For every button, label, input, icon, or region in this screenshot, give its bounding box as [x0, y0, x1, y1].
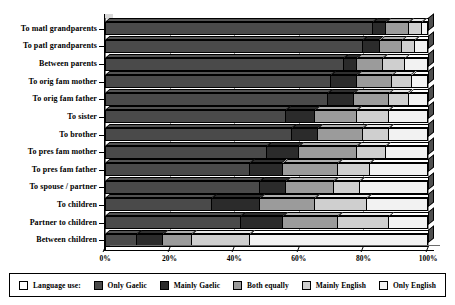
bar-segment	[105, 198, 212, 211]
y-axis-tick	[99, 170, 105, 171]
bar-row-end-cap	[428, 225, 434, 243]
bar-segment	[392, 75, 411, 88]
bar-row-end-cap	[428, 14, 434, 32]
bar-segment	[260, 181, 286, 194]
bar-segment	[357, 110, 389, 123]
x-axis-tick-label: 0%	[99, 254, 110, 263]
bar-segment	[389, 128, 428, 141]
bar-segment	[105, 163, 250, 176]
bar-row	[105, 93, 428, 106]
category-label: To matl grandparents	[21, 24, 97, 34]
bar-segment-top-face	[389, 124, 433, 128]
x-axis-tick-label: 60%	[291, 254, 306, 263]
category-label: To children	[57, 200, 97, 210]
bar-segment	[250, 163, 282, 176]
bar-segment	[286, 181, 334, 194]
bar-segment	[338, 216, 390, 229]
bar-segment-top-face	[360, 177, 433, 181]
x-axis-baseline	[104, 250, 434, 251]
bar-segment-top-face	[105, 18, 378, 22]
bar-segment	[212, 198, 260, 211]
bar-segment	[415, 40, 428, 53]
y-axis-tick	[99, 152, 105, 153]
bar-segment-top-face	[315, 194, 371, 198]
bar-segment	[283, 163, 338, 176]
legend-entry-mainly-gaelic[interactable]: Mainly Gaelic	[160, 281, 221, 290]
legend-swatch-mainly-gaelic	[160, 281, 169, 290]
bar-row	[105, 40, 428, 53]
legend-entry-prefix: Language use:	[19, 281, 81, 290]
bar-segment	[105, 58, 344, 71]
bar-segment	[360, 181, 428, 194]
category-label: Partner to children	[30, 218, 97, 228]
bar-segment	[373, 22, 386, 35]
bar-segment-top-face	[192, 230, 255, 234]
bar-segment	[328, 93, 354, 106]
plot-area	[105, 18, 428, 247]
bar-segment-top-face	[105, 54, 349, 58]
bar-segment	[267, 146, 299, 159]
bar-segment-top-face	[105, 194, 216, 198]
legend-entry-only-gaelic[interactable]: Only Gaelic	[94, 281, 147, 290]
bar-segment-top-face	[260, 194, 320, 198]
bar-row-end-cap	[428, 66, 434, 84]
legend-entry-only-english[interactable]: Only English	[379, 281, 436, 290]
y-axis-tick	[99, 64, 105, 65]
category-label: Between children	[36, 235, 97, 245]
bar-segment	[363, 40, 379, 53]
legend-label-only-english: Only English	[393, 281, 436, 290]
bar-row	[105, 216, 428, 229]
bar-segment-top-face	[283, 212, 343, 216]
legend-entry-both-equally[interactable]: Both equally	[233, 281, 289, 290]
bar-segment-top-face	[241, 212, 288, 216]
bar-row	[105, 75, 428, 88]
bar-segment	[405, 58, 428, 71]
bar-segment	[363, 128, 389, 141]
bar-segment-top-face	[389, 212, 433, 216]
bar-segment-top-face	[105, 106, 291, 110]
bar-segment-top-face	[250, 230, 432, 234]
category-label: To orig fam father	[33, 94, 97, 104]
bar-segment-top-face	[105, 124, 297, 128]
bar-segment-top-face	[105, 142, 271, 146]
x-axis-tick-label: 20%	[162, 254, 177, 263]
y-axis-tick	[99, 29, 105, 30]
bar-segment-top-face	[389, 106, 433, 110]
category-label: To sister	[67, 112, 97, 122]
bar-segment	[357, 146, 386, 159]
bar-segment-top-face	[105, 212, 245, 216]
bar-row-end-cap	[428, 102, 434, 120]
legend-label-prefix: Language use:	[33, 281, 81, 290]
category-label: To orig fam mother	[29, 77, 97, 87]
bar-row	[105, 163, 428, 176]
bar-segment	[105, 110, 286, 123]
bar-segment	[357, 58, 383, 71]
bar-segment	[105, 75, 331, 88]
bar-segment-top-face	[370, 159, 433, 163]
category-label: To brother	[59, 130, 97, 140]
bar-segment	[412, 75, 428, 88]
bar-segment	[299, 146, 357, 159]
bar-segment	[105, 40, 363, 53]
legend-label-only-gaelic: Only Gaelic	[108, 281, 147, 290]
y-axis-tick	[99, 223, 105, 224]
bar-segment	[409, 22, 422, 35]
bar-segment-top-face	[386, 142, 433, 146]
category-label: To patl grandparents	[23, 41, 97, 51]
y-axis-tick	[99, 135, 105, 136]
bar-row	[105, 128, 428, 141]
bar-segment	[386, 22, 409, 35]
y-axis-tick	[99, 187, 105, 188]
bar-row	[105, 110, 428, 123]
bar-segment	[344, 58, 357, 71]
bar-segment	[260, 198, 315, 211]
bar-segment	[389, 93, 408, 106]
y-axis-tick	[99, 82, 105, 83]
bar-segment	[283, 216, 338, 229]
x-axis-tick-label: 100%	[419, 254, 438, 263]
legend-entry-mainly-english[interactable]: Mainly English	[302, 281, 366, 290]
bar-segment	[105, 216, 241, 229]
bar-segment	[105, 93, 328, 106]
bar-row	[105, 198, 428, 211]
bar-segment-top-face	[105, 159, 255, 163]
